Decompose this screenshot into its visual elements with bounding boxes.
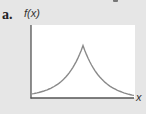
plot-area (31, 25, 135, 98)
chart-plot (0, 0, 146, 114)
